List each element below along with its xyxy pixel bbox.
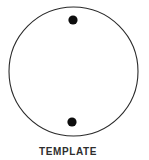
- template-diagram-canvas: [0, 0, 149, 160]
- template-label: TEMPLATE: [0, 147, 136, 157]
- template-circle-outline: [9, 7, 138, 136]
- template-diagram: TEMPLATE: [0, 0, 149, 160]
- bottom-hole-dot: [67, 117, 76, 126]
- top-hole-dot: [68, 15, 77, 24]
